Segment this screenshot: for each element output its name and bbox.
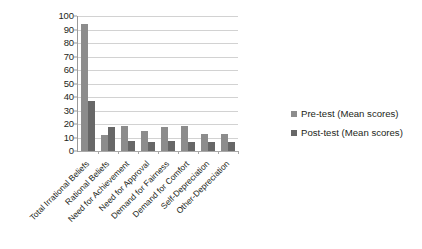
y-axis-tick-label: 30 bbox=[64, 106, 74, 116]
y-axis-tick-label: 50 bbox=[64, 79, 74, 89]
x-axis-tick bbox=[158, 151, 159, 154]
x-axis-category-label: Total Irrational Beliefs bbox=[0, 159, 91, 249]
bar-post-test bbox=[148, 142, 155, 151]
x-axis-tick bbox=[118, 151, 119, 154]
y-axis-tick-label: 60 bbox=[64, 65, 74, 75]
x-axis-category-label: Need for Achievement bbox=[0, 159, 131, 249]
bar-post-test bbox=[108, 127, 115, 151]
bar-pre-test bbox=[201, 134, 208, 151]
x-axis-category-label: Rational Beliefs bbox=[0, 159, 111, 249]
legend-label-post-test: Post-test (Mean scores) bbox=[301, 128, 403, 138]
y-axis-tick-label: 100 bbox=[58, 11, 74, 21]
x-axis-tick bbox=[198, 151, 199, 154]
x-axis-tick bbox=[98, 151, 99, 154]
bar-group bbox=[178, 16, 198, 151]
y-axis-tick bbox=[74, 151, 77, 152]
y-axis-tick bbox=[74, 137, 77, 138]
plot-area bbox=[78, 16, 238, 151]
bar-group bbox=[218, 16, 238, 151]
legend-swatch-post-test-icon bbox=[291, 130, 297, 136]
y-axis-tick-label: 70 bbox=[64, 52, 74, 62]
y-axis-tick bbox=[74, 56, 77, 57]
x-axis-category-label: Demand for Comfort bbox=[1, 159, 191, 249]
legend-label-pre-test: Pre-test (Mean scores) bbox=[301, 109, 399, 119]
bar-post-test bbox=[208, 142, 215, 151]
chart-legend: Pre-test (Mean scores) Post-test (Mean s… bbox=[291, 104, 419, 142]
bar-pre-test bbox=[181, 126, 188, 151]
y-axis-tick-label: 40 bbox=[64, 92, 74, 102]
x-axis-tick bbox=[138, 151, 139, 154]
bar-post-test bbox=[128, 141, 135, 151]
y-axis-tick bbox=[74, 70, 77, 71]
bar-group bbox=[98, 16, 118, 151]
bar-post-test bbox=[88, 101, 95, 151]
y-axis-tick-label: 10 bbox=[64, 133, 74, 143]
bar-chart: 1009080706050403020100 Total Irrational … bbox=[0, 0, 422, 249]
x-axis-tick bbox=[238, 151, 239, 154]
y-axis-tick bbox=[74, 29, 77, 30]
bar-post-test bbox=[228, 142, 235, 151]
legend-item-post-test: Post-test (Mean scores) bbox=[291, 123, 419, 142]
x-axis-tick bbox=[218, 151, 219, 154]
bar-group bbox=[198, 16, 218, 151]
bar-group bbox=[118, 16, 138, 151]
bar-post-test bbox=[188, 142, 195, 151]
y-axis-tick bbox=[74, 110, 77, 111]
y-axis-tick-label: 20 bbox=[64, 119, 74, 129]
bar-group bbox=[138, 16, 158, 151]
bar-post-test bbox=[168, 141, 175, 151]
bar-group bbox=[158, 16, 178, 151]
y-axis-tick-label: 80 bbox=[64, 38, 74, 48]
y-axis-tick bbox=[74, 83, 77, 84]
x-axis-category-label: Need for Approval bbox=[0, 159, 151, 249]
y-axis-tick-labels: 1009080706050403020100 bbox=[52, 16, 74, 151]
y-axis-tick bbox=[74, 43, 77, 44]
bar-pre-test bbox=[221, 134, 228, 151]
bar-group bbox=[78, 16, 98, 151]
x-axis-tick bbox=[178, 151, 179, 154]
bar-pre-test bbox=[161, 127, 168, 151]
y-axis-tick bbox=[74, 97, 77, 98]
x-axis-category-label: Other-Depreciation bbox=[41, 159, 231, 249]
bar-pre-test bbox=[81, 24, 88, 151]
x-axis-category-label: Demand for Fairness bbox=[0, 159, 171, 249]
bar-pre-test bbox=[141, 131, 148, 151]
y-axis-tick bbox=[74, 124, 77, 125]
bar-pre-test bbox=[121, 126, 128, 151]
bar-groups bbox=[78, 16, 238, 151]
legend-swatch-pre-test-icon bbox=[291, 111, 297, 117]
y-axis-tick-label: 90 bbox=[64, 25, 74, 35]
x-axis-category-label: Self-Depreciation bbox=[21, 159, 211, 249]
legend-item-pre-test: Pre-test (Mean scores) bbox=[291, 104, 419, 123]
y-axis-tick bbox=[74, 16, 77, 17]
bar-pre-test bbox=[101, 135, 108, 151]
